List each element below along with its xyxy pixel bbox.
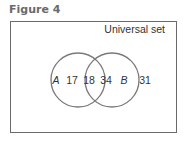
intersection-count: 18 — [83, 74, 95, 86]
set-a-label: A — [51, 74, 59, 86]
outside-count: 31 — [139, 74, 151, 86]
set-a-only-count: 17 — [66, 74, 78, 86]
set-b-label: B — [120, 74, 127, 86]
set-b-only-count: 34 — [100, 74, 112, 86]
venn-diagram: Universal set A 17 18 34 B 31 — [0, 0, 183, 142]
universal-set-label: Universal set — [104, 23, 165, 35]
